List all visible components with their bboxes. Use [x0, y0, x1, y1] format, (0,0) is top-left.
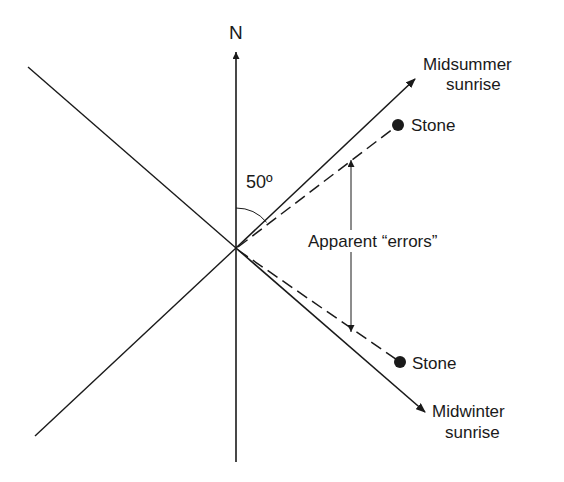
dashed-line-to-lower-stone — [238, 250, 400, 362]
lower-stone-dot — [394, 356, 406, 368]
angle-label: 50º — [246, 172, 273, 192]
upper-stone-dot — [392, 119, 404, 131]
lower-stone-label: Stone — [412, 354, 456, 373]
diagonal-line-upper-left — [28, 67, 236, 248]
diagonal-line-lower-left — [35, 248, 236, 436]
midwinter-sunrise-line — [236, 248, 425, 412]
upper-stone-label: Stone — [411, 116, 455, 135]
stone-alignment-diagram: N 50º Stone Stone Midsummer sunrise Midw… — [0, 0, 564, 482]
north-label: N — [229, 22, 243, 43]
midsummer-label-line1: Midsummer — [423, 55, 512, 74]
midsummer-sunrise-line — [236, 79, 415, 248]
midwinter-label-line2: sunrise — [445, 423, 500, 442]
midwinter-label-line1: Midwinter — [432, 402, 505, 421]
errors-label: Apparent “errors” — [308, 232, 438, 251]
angle-arc — [236, 208, 267, 222]
midsummer-label-line2: sunrise — [446, 75, 501, 94]
